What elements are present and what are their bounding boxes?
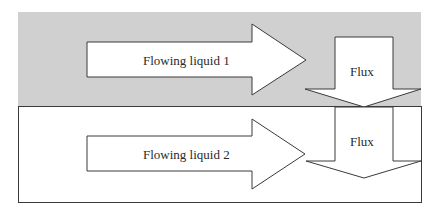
flow-arrow-2-label: Flowing liquid 2 bbox=[143, 148, 230, 161]
diagram-canvas bbox=[0, 0, 439, 213]
flux-diagram: Flowing liquid 1 Flux Flowing liquid 2 F… bbox=[0, 0, 439, 213]
flux-arrow-1-label: Flux bbox=[350, 65, 374, 78]
flow-arrow-1-label: Flowing liquid 1 bbox=[143, 54, 230, 67]
flux-arrow-2-label: Flux bbox=[350, 135, 374, 148]
